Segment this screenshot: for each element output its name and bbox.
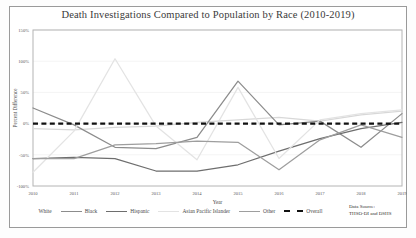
data-source-label: Data Source: [349, 203, 411, 210]
x-axis-tick-label: 2015 [233, 191, 243, 196]
x-axis-tick-label: 2014 [192, 191, 202, 196]
legend-swatch-hispanic [106, 211, 127, 212]
x-axis-tick-label: 2017 [315, 191, 325, 196]
y-axis-tick-label: 100% [18, 59, 29, 64]
legend-label: Asian Pacific Islander [182, 208, 230, 214]
data-source-value: THSO-DI and DSHS [349, 210, 411, 217]
legend-item-hispanic[interactable]: Hispanic [106, 208, 149, 214]
x-axis-tick-label: 2012 [110, 191, 120, 196]
legend-item-black[interactable]: Black [61, 208, 98, 214]
legend-label: Other [263, 208, 275, 214]
chart-figure: Death Investigations Compared to Populat… [0, 0, 416, 238]
legend-swatch-asian-pacific-islander [158, 211, 179, 212]
y-axis-title: Percent Difference [12, 88, 18, 128]
legend-swatch-black [61, 211, 82, 212]
legend-label: White [39, 208, 52, 214]
y-axis-tick-label: -50% [19, 153, 29, 158]
y-axis-tick-label: 0% [23, 121, 29, 126]
x-axis-tick-label: 2013 [151, 191, 161, 196]
x-axis-tick-label: 2019 [397, 191, 407, 196]
legend-item-other[interactable]: Other [239, 208, 275, 214]
y-axis-tick-label: 50% [21, 90, 30, 95]
legend-label: Black [85, 208, 98, 214]
series-line-asian-pacific-islander [33, 59, 402, 173]
plot-border [33, 30, 402, 186]
data-source-note: Data Source: THSO-DI and DSHS [349, 203, 411, 218]
x-axis-tick-label: 2016 [274, 191, 284, 196]
legend-label: Hispanic [130, 208, 149, 214]
x-axis-tick-label: 2010 [28, 191, 38, 196]
x-axis-tick-label: 2018 [356, 191, 366, 196]
legend-item-white[interactable]: White [36, 208, 52, 214]
series-line-black [33, 81, 402, 148]
series-line-white [33, 111, 402, 130]
x-axis-tick-label: 2011 [69, 191, 79, 196]
legend-item-asian-pacific-islander[interactable]: Asian Pacific Islander [158, 208, 230, 214]
legend-swatch-other [239, 211, 260, 212]
legend-item-overall[interactable]: Overall [284, 208, 322, 214]
legend-label: Overall [306, 208, 322, 214]
y-axis-tick-label: -100% [17, 184, 29, 189]
legend-swatch-overall [284, 210, 303, 212]
y-axis-tick-label: 150% [18, 28, 29, 33]
chart-legend: WhiteBlackHispanicAsian Pacific Islander… [14, 202, 344, 220]
